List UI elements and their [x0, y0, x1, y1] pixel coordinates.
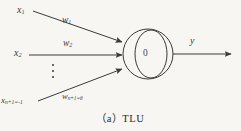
- label-output-y: y: [190, 36, 194, 46]
- vertical-ellipsis-icon: [50, 64, 56, 84]
- label-weight-w-bias: wn+1=θ: [62, 92, 83, 101]
- caption-marker: （a）: [96, 113, 122, 124]
- label-input-x-bias: xn+1=-1: [1, 96, 23, 106]
- node-inner-ellipse: [135, 30, 167, 78]
- node-threshold-value: 0: [143, 48, 148, 58]
- input-edge-1: [33, 11, 122, 42]
- label-input-x2: x2: [14, 48, 22, 59]
- figure-caption: （a）TLU: [0, 110, 241, 125]
- label-input-x1: x1: [17, 5, 25, 16]
- caption-text: TLU: [122, 113, 144, 124]
- node-outer-circle: [123, 29, 173, 79]
- tlu-figure: x1 w1 x2 w2 xn+1=-1 wn+1=θ y 0 （a）TLU: [0, 0, 241, 131]
- label-weight-w1: w1: [62, 16, 71, 26]
- label-weight-w2: w2: [63, 39, 72, 49]
